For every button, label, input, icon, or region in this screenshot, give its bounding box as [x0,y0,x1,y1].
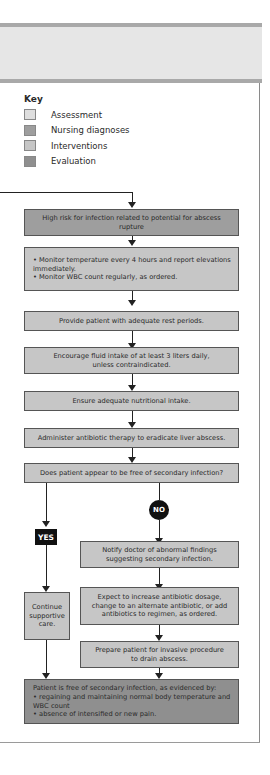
connector [159,568,160,585]
prepare-procedure-box: Prepare patient for invasive procedure t… [80,641,239,668]
monitor-intervention-box: • Monitor temperature every 4 hours and … [24,247,239,291]
legend-label: Nursing diagnoses [51,125,130,135]
legend-item-interventions: Interventions [24,138,130,154]
connector [0,192,133,193]
fluid-intervention-box: Encourage fluid intake of at least 3 lit… [24,347,239,374]
legend-item-evaluation: Evaluation [24,154,130,170]
bullet-item: • absence of intensified or new pain. [33,710,234,719]
expect-antibiotic-change-box: Expect to increase antibiotic dosage, ch… [80,587,239,625]
rest-intervention-box: Provide patient with adequate rest perio… [24,311,239,331]
legend-title: Key [24,94,130,104]
connector [46,640,47,674]
evaluation-box: Patient is free of secondary infection, … [24,679,239,724]
arrow-down-icon [128,202,136,208]
nursing-diagnosis-box: High risk for infection related to poten… [24,209,239,236]
arrow-down-icon [42,521,50,527]
nutrition-intervention-box: Ensure adequate nutritional intake. [24,391,239,411]
yes-badge: YES [35,529,57,545]
bullet-item: • Monitor temperature every 4 hours and … [33,256,234,273]
legend-item-nursing-diagnoses: Nursing diagnoses [24,123,130,139]
evaluation-swatch [24,156,36,167]
connector [46,483,47,523]
legend: Key Assessment Nursing diagnoses Interve… [24,94,130,169]
arrow-down-icon [128,240,136,246]
continue-care-box: Continue supportive care. [24,592,70,640]
legend-label: Interventions [51,141,107,151]
header-band [0,23,262,83]
legend-label: Assessment [51,110,102,120]
evaluation-intro: Patient is free of secondary infection, … [33,684,234,693]
bullet-item: • regaining and maintaining normal body … [33,693,234,710]
legend-label: Evaluation [51,156,96,166]
connector [132,291,133,300]
notify-doctor-box: Notify doctor of abnormal findings sugge… [80,541,239,568]
connector [132,192,133,202]
connector [159,483,160,500]
frame-border-right [259,83,260,743]
frame-border-bottom [0,742,260,743]
nursing-diagnoses-swatch [24,125,36,136]
bullet-item: • Monitor WBC count regularly, as ordere… [33,273,234,282]
assessment-swatch [24,109,36,120]
arrow-down-icon [128,300,136,306]
connector [46,545,47,587]
decision-question-box: Does patient appear to be free of second… [24,463,239,483]
antibiotic-intervention-box: Administer antibiotic therapy to eradica… [24,428,239,448]
no-badge: NO [149,500,169,520]
legend-item-assessment: Assessment [24,107,130,123]
interventions-swatch [24,140,36,151]
connector [159,520,160,540]
